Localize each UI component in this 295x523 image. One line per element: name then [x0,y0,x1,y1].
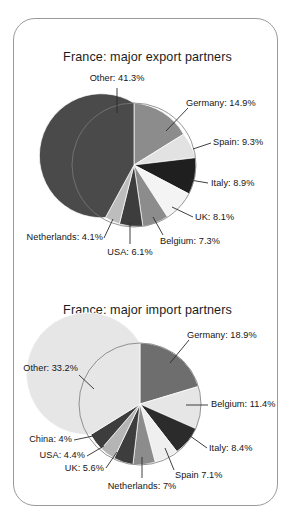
import-label-usa: USA: 4.4% [40,450,85,460]
import-label-netherlands: Netherlands: 7% [108,481,177,491]
import-label-belgium: Belgium: 11.4% [211,399,275,409]
import-label-other: Other: 33.2% [23,363,78,373]
import-label-china: China: 4% [29,434,72,444]
import-label-spain: Spain 7.1% [175,470,223,480]
import-label-uk: UK: 5.6% [65,463,104,473]
import-label-germany: Germany: 18.9% [187,330,257,340]
import-label-italy: Italy: 8.4% [209,443,252,453]
